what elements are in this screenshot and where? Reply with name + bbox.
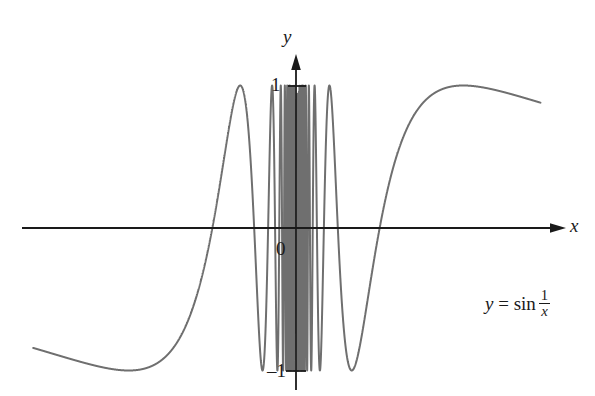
plot-svg bbox=[0, 0, 595, 396]
x-axis-label: x bbox=[570, 215, 578, 237]
equation-numerator: 1 bbox=[539, 288, 550, 303]
equation-denominator: x bbox=[539, 303, 550, 319]
equation-equals: = bbox=[498, 293, 509, 314]
figure-canvas: y x 1 –1 0 y = sin1x bbox=[0, 0, 595, 396]
equation-fraction: 1x bbox=[539, 288, 550, 320]
origin-label: 0 bbox=[276, 238, 286, 260]
y-axis-label: y bbox=[283, 26, 291, 48]
x-axis-arrowhead bbox=[550, 223, 566, 233]
equation-function-name: sin bbox=[514, 293, 536, 314]
tick-label-y-positive-one: 1 bbox=[271, 74, 281, 96]
equation-annotation: y = sin1x bbox=[485, 288, 550, 320]
tick-label-y-negative-one: –1 bbox=[267, 360, 286, 382]
equation-lhs: y bbox=[485, 293, 493, 314]
y-axis-arrowhead bbox=[291, 54, 301, 70]
